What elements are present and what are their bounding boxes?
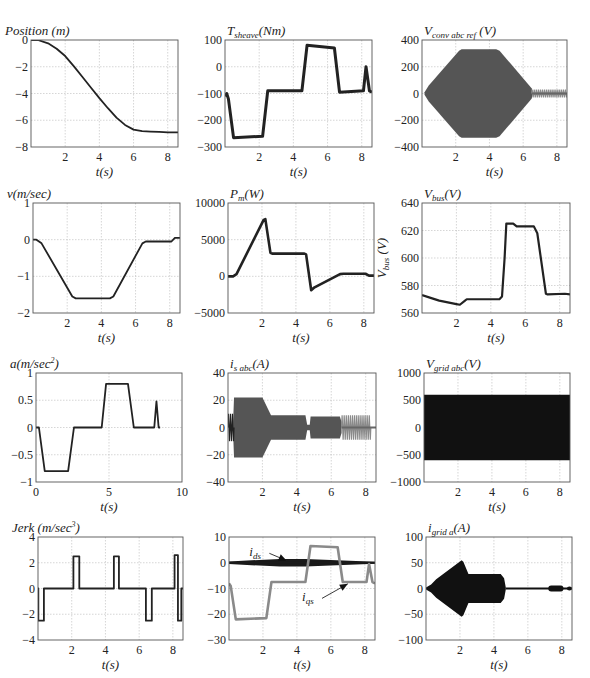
y-tick-label: −400 bbox=[394, 140, 419, 154]
tick-labels: 2468420−2−4 bbox=[22, 530, 176, 657]
y-tick-label: 0 bbox=[413, 87, 419, 101]
x-axis-label: t(s) bbox=[292, 330, 309, 345]
x-tick-label: 5 bbox=[106, 485, 112, 499]
x-tick-label: 2 bbox=[455, 485, 461, 499]
plot-area bbox=[422, 224, 570, 305]
subplot-p_m: 24681000050000−5000t(s)Pm(W) bbox=[194, 186, 374, 345]
y-tick-label: −20 bbox=[207, 607, 226, 621]
y-tick-label: 620 bbox=[401, 224, 419, 238]
x-tick-label: 4 bbox=[491, 643, 497, 657]
subplot-t_sheave: 24681000−100−200−300t(s)Tsheave(Nm) bbox=[197, 23, 372, 179]
x-axis-label: t(s) bbox=[102, 657, 119, 672]
y-tick-label: −100 bbox=[398, 633, 423, 647]
y-tick-label: 640 bbox=[401, 196, 419, 210]
subplot-position: 24680−2−4−6−8t(s)Position (m) bbox=[4, 23, 178, 179]
axes-frame bbox=[33, 203, 180, 313]
subplot-v_grid_abc: 246810005000−500−1000t(s)Vgrid abc(V) bbox=[390, 356, 570, 514]
y-tick-label: 0 bbox=[417, 582, 423, 596]
y-tick-label: 0 bbox=[219, 421, 225, 435]
y-tick-label: −2 bbox=[15, 60, 28, 74]
y-tick-label: −0.5 bbox=[11, 448, 33, 462]
tick-labels: 24681000−100−200−300 bbox=[197, 33, 365, 164]
y-tick-label: −200 bbox=[394, 113, 419, 127]
y-tick-label: 5000 bbox=[201, 233, 225, 247]
x-axis-label: t(s) bbox=[100, 499, 117, 514]
y-tick-label: 600 bbox=[401, 251, 419, 265]
x-tick-label: 2 bbox=[64, 316, 70, 330]
y-tick-label: 10000 bbox=[195, 196, 225, 210]
x-tick-label: 6 bbox=[525, 643, 531, 657]
plot-area bbox=[225, 45, 372, 137]
y-tick-label: −6 bbox=[15, 113, 28, 127]
y-tick-label: −500 bbox=[396, 448, 421, 462]
signal-envelope bbox=[425, 49, 533, 137]
y-tick-label: −8 bbox=[15, 140, 28, 154]
y-tick-label: 50 bbox=[411, 556, 423, 570]
series-v bbox=[33, 238, 180, 299]
subplot-title: Tsheave(Nm) bbox=[227, 23, 285, 40]
y-tick-label: 0 bbox=[24, 233, 30, 247]
y-tick-label: 0 bbox=[29, 582, 35, 596]
y-tick-label: −1 bbox=[20, 475, 33, 489]
subplot-i_grid_a: 2468100500−50−100t(s)igrid a(A) bbox=[398, 520, 572, 672]
x-tick-label: 8 bbox=[167, 316, 173, 330]
plot-area bbox=[31, 40, 178, 132]
x-tick-label: 6 bbox=[325, 150, 331, 164]
plot-area bbox=[33, 238, 180, 299]
series-Vbus bbox=[422, 224, 570, 305]
subplot-title: Jerk (m/sec3) bbox=[12, 520, 80, 535]
grid-lines bbox=[228, 203, 374, 313]
x-axis-label: t(s) bbox=[290, 164, 307, 179]
oscillation-trace bbox=[228, 414, 234, 441]
y-axis-label: Vbus (V) bbox=[374, 238, 391, 278]
subplot-v_conv_abc_ref: 24684002000−200−400t(s)Vconv abc ref (V) bbox=[394, 23, 567, 179]
y-tick-label: 1000 bbox=[397, 366, 421, 380]
y-tick-label: 10 bbox=[214, 530, 226, 544]
y-tick-label: 0 bbox=[220, 556, 226, 570]
y-tick-label: 40 bbox=[213, 366, 225, 380]
x-tick-label: 6 bbox=[133, 316, 139, 330]
subplot-i_dq: 2468100−10−20−30t(s)idsiqs bbox=[207, 530, 375, 672]
x-tick-label: 4 bbox=[98, 316, 104, 330]
y-tick-label: 100 bbox=[204, 33, 222, 47]
x-tick-label: 6 bbox=[520, 150, 526, 164]
y-tick-label: 560 bbox=[401, 306, 419, 320]
y-tick-label: 0 bbox=[415, 421, 421, 435]
x-tick-label: 8 bbox=[557, 316, 563, 330]
signal-envelope bbox=[426, 560, 506, 617]
grid-lines bbox=[33, 203, 180, 313]
subplot-title: igrid a(A) bbox=[428, 520, 470, 537]
subplot-title: Vbus(V) bbox=[424, 186, 461, 203]
y-tick-label: 500 bbox=[403, 393, 421, 407]
x-tick-label: 4 bbox=[486, 150, 492, 164]
y-tick-label: −30 bbox=[207, 633, 226, 647]
y-tick-label: −200 bbox=[197, 113, 222, 127]
series-Pm bbox=[228, 219, 374, 290]
x-tick-label: 4 bbox=[294, 485, 300, 499]
plot-area bbox=[424, 395, 570, 460]
y-tick-label: −2 bbox=[17, 306, 30, 320]
x-tick-label: 8 bbox=[363, 485, 369, 499]
subplot-title: a(m/sec2) bbox=[10, 356, 59, 371]
y-tick-label: 400 bbox=[401, 33, 419, 47]
annotation-i_ds: ids bbox=[249, 544, 261, 561]
x-tick-label: 6 bbox=[523, 485, 529, 499]
arrowhead-icon bbox=[339, 584, 348, 591]
subplot-title: Vconv abc ref (V) bbox=[424, 23, 496, 40]
series-jerk bbox=[38, 555, 183, 621]
subplot-title: Position (m) bbox=[4, 23, 70, 38]
y-tick-label: −2 bbox=[22, 607, 35, 621]
tick-labels: 24680−2−4−6−8 bbox=[15, 33, 171, 164]
x-tick-label: 4 bbox=[489, 485, 495, 499]
tick-labels: 246810−1−2 bbox=[17, 196, 173, 330]
x-tick-label: 8 bbox=[362, 643, 368, 657]
plot-area bbox=[228, 219, 374, 290]
x-tick-label: 2 bbox=[259, 485, 265, 499]
x-tick-label: 8 bbox=[559, 643, 565, 657]
annotation-i_qs: iqs bbox=[302, 589, 314, 606]
x-tick-label: 4 bbox=[488, 316, 494, 330]
subplot-i_s_abc: 246840200−20−40t(s)is abc(A) bbox=[206, 356, 376, 514]
subplot-title: is abc(A) bbox=[230, 356, 269, 373]
y-tick-label: 0 bbox=[216, 60, 222, 74]
y-tick-label: 0 bbox=[219, 269, 225, 283]
